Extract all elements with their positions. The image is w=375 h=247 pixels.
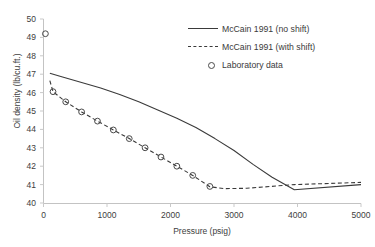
x-tick-label: 1000	[92, 211, 122, 220]
y-tick-label: 50	[20, 15, 36, 24]
solid-line-icon	[186, 22, 220, 36]
x-tick-marks	[44, 204, 362, 208]
legend-label: McCain 1991 (no shift)	[220, 24, 309, 34]
dashed-line-icon	[186, 40, 220, 54]
x-tick-label: 2000	[156, 211, 186, 220]
y-tick-marks	[40, 19, 44, 203]
y-tick-label: 42	[20, 162, 36, 171]
y-tick-label: 48	[20, 52, 36, 61]
legend-label: Laboratory data	[220, 60, 283, 70]
legend-item-no-shift: McCain 1991 (no shift)	[186, 20, 366, 38]
y-tick-label: 43	[20, 144, 36, 153]
x-tick-label: 3000	[219, 211, 249, 220]
series-line-with-shift	[50, 81, 361, 189]
y-axis-title: Oil density (lb/cu.ft.)	[12, 31, 22, 151]
legend: McCain 1991 (no shift) McCain 1991 (with…	[186, 20, 366, 74]
legend-item-laboratory-data: Laboratory data	[186, 56, 366, 74]
y-tick-label: 45	[20, 107, 36, 116]
x-tick-label: 4000	[283, 211, 313, 220]
y-tick-label: 41	[20, 181, 36, 190]
x-tick-label: 0	[29, 211, 59, 220]
y-tick-label: 44	[20, 125, 36, 134]
data-point-marker	[50, 89, 56, 95]
x-tick-label: 5000	[346, 211, 375, 220]
y-tick-label: 47	[20, 70, 36, 79]
series-line-no-shift	[50, 73, 361, 189]
y-tick-label: 49	[20, 33, 36, 42]
legend-label: McCain 1991 (with shift)	[220, 42, 315, 52]
data-point-marker	[95, 118, 101, 124]
data-point-marker	[158, 154, 164, 160]
y-tick-label: 40	[20, 199, 36, 208]
y-tick-label: 46	[20, 89, 36, 98]
x-axis-title: Pressure (psig)	[43, 226, 361, 236]
legend-item-with-shift: McCain 1991 (with shift)	[186, 38, 366, 56]
open-circle-marker-icon	[186, 58, 220, 72]
data-point-marker	[174, 163, 180, 169]
